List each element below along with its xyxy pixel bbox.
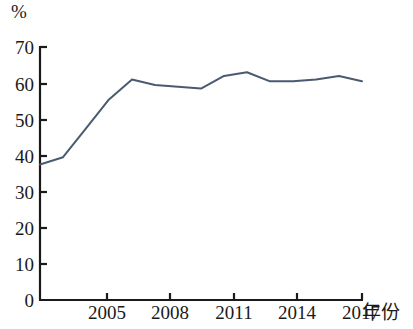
y-tick-label-20: 20 xyxy=(0,219,34,238)
y-tick-label-60: 60 xyxy=(0,75,34,94)
x-tick-label-2011: 2011 xyxy=(204,303,264,322)
y-tick-label-0: 0 xyxy=(0,291,34,310)
x-tick-label-2005: 2005 xyxy=(77,303,137,322)
x-axis-title: 年份 xyxy=(362,303,400,322)
x-axis xyxy=(39,293,363,300)
line-chart: % 70 60 50 40 30 20 10 0 2005 2008 2011 … xyxy=(0,0,413,329)
data-series-line xyxy=(40,72,362,164)
x-tick-label-2014: 2014 xyxy=(267,303,327,322)
y-tick-label-70: 70 xyxy=(0,38,34,57)
chart-plot-area xyxy=(0,0,413,329)
y-tick-label-50: 50 xyxy=(0,111,34,130)
y-axis xyxy=(40,46,47,300)
y-tick-label-40: 40 xyxy=(0,147,34,166)
y-tick-label-10: 10 xyxy=(0,255,34,274)
y-tick-label-30: 30 xyxy=(0,183,34,202)
x-tick-label-2008: 2008 xyxy=(140,303,200,322)
